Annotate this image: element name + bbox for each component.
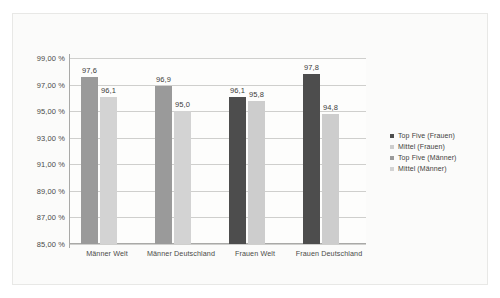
bar-value-label: 97,8 (304, 63, 319, 72)
bar: 94,8 (322, 114, 339, 244)
bar: 95,0 (174, 111, 191, 244)
y-axis-tick-label: 85,00 % (37, 240, 65, 249)
bar-value-label: 96,1 (230, 86, 245, 95)
y-axis-tick-label: 91,00 % (37, 160, 65, 169)
gridline (70, 244, 366, 245)
legend-item: Top Five (Männer) (390, 152, 494, 163)
bar-value-label: 95,0 (175, 100, 190, 109)
y-axis-tick-label: 97,00 % (37, 80, 65, 89)
y-axis-tick-label: 89,00 % (37, 186, 65, 195)
legend-item-label: Top Five (Männer) (398, 154, 457, 161)
chart-figure: 85,00 %87,00 %89,00 %91,00 %93,00 %95,00… (12, 13, 488, 285)
y-axis-tick-label: 93,00 % (37, 133, 65, 142)
y-axis-tick-label: 87,00 % (37, 213, 65, 222)
legend-swatch-icon (390, 145, 394, 149)
bar-group: 97,696,1Männer Welt (70, 58, 144, 244)
y-axis-tick-label: 99,00 % (37, 54, 65, 63)
x-axis-category-label: Männer Deutschland (147, 249, 215, 258)
bar: 96,1 (100, 97, 117, 244)
bar: 96,1 (229, 97, 246, 244)
x-axis-category-label: Frauen Deutschland (296, 249, 363, 258)
bar-group: 97,894,8Frauen Deutschland (292, 58, 366, 244)
bar-group: 96,995,0Männer Deutschland (144, 58, 218, 244)
legend-item: Mittel (Frauen) (390, 141, 494, 152)
bar-value-label: 94,8 (323, 103, 338, 112)
legend-item-label: Top Five (Frauen) (398, 132, 455, 139)
y-axis-tick-label: 95,00 % (37, 107, 65, 116)
page: 85,00 %87,00 %89,00 %91,00 %93,00 %95,00… (0, 0, 500, 298)
bar: 97,6 (81, 77, 98, 244)
bar-value-label: 95,8 (249, 90, 264, 99)
chart-legend: Top Five (Frauen)Mittel (Frauen)Top Five… (390, 130, 494, 174)
legend-item: Top Five (Frauen) (390, 130, 494, 141)
bar-value-label: 96,9 (156, 75, 171, 84)
legend-item-label: Mittel (Frauen) (398, 143, 445, 150)
legend-swatch-icon (390, 167, 394, 171)
bar: 97,8 (303, 74, 320, 244)
legend-item: Mittel (Männer) (390, 163, 494, 174)
x-axis-category-label: Frauen Welt (235, 249, 275, 258)
legend-swatch-icon (390, 156, 394, 160)
bar-value-label: 96,1 (101, 86, 116, 95)
x-axis-category-label: Männer Welt (86, 249, 128, 258)
plot-area: 85,00 %87,00 %89,00 %91,00 %93,00 %95,00… (70, 58, 366, 244)
bar: 95,8 (248, 101, 265, 244)
bar: 96,9 (155, 86, 172, 244)
legend-item-label: Mittel (Männer) (398, 165, 447, 172)
bar-value-label: 97,6 (82, 66, 97, 75)
legend-swatch-icon (390, 134, 394, 138)
bar-group: 96,195,8Frauen Welt (218, 58, 292, 244)
